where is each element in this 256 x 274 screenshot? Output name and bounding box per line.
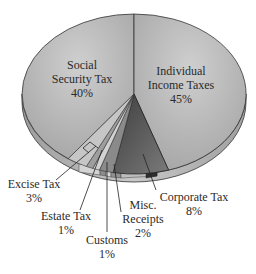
label-estate-tax: Estate Tax 1% [41, 209, 91, 237]
label-social-security: Social Security Tax 40% [52, 58, 113, 100]
label-corporate-tax: Corporate Tax 8% [160, 190, 229, 218]
label-individual-income: Individual Income Taxes 45% [148, 64, 215, 106]
label-misc-receipts: Misc. Receipts 2% [122, 198, 163, 240]
label-excise-tax: Excise Tax 3% [8, 177, 61, 205]
